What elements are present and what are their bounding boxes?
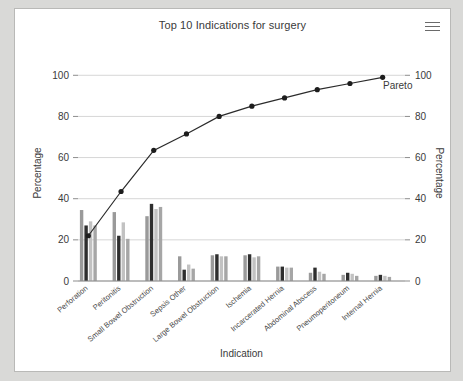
bar-5-4[interactable]: [224, 256, 227, 281]
bar-7-1[interactable]: [276, 267, 279, 281]
bar-2-4[interactable]: [126, 239, 129, 281]
pareto-point-9[interactable]: [347, 81, 352, 86]
pareto-point-8[interactable]: [315, 87, 320, 92]
bar-8-4[interactable]: [322, 274, 325, 281]
bar-5-1[interactable]: [211, 255, 214, 281]
y-tick-right-20: 20: [415, 234, 427, 245]
y-tick-left-60: 60: [58, 152, 70, 163]
x-category-label-2: Peritonitis: [91, 284, 122, 312]
bar-10-2[interactable]: [379, 275, 382, 281]
y-tick-right-60: 60: [415, 152, 427, 163]
y-tick-left-40: 40: [58, 193, 70, 204]
y-tick-right-0: 0: [415, 276, 421, 287]
x-category-label-1: Perforation: [55, 284, 89, 315]
bar-2-1[interactable]: [113, 212, 116, 281]
bar-7-4[interactable]: [290, 268, 293, 281]
bar-2-2[interactable]: [117, 236, 120, 281]
bar-9-3[interactable]: [351, 274, 354, 281]
pareto-series: [86, 75, 386, 239]
pareto-line: [88, 77, 382, 235]
bar-3-1[interactable]: [145, 216, 148, 281]
bar-9-1[interactable]: [342, 275, 345, 281]
bar-3-4[interactable]: [159, 207, 162, 281]
bar-5-3[interactable]: [220, 256, 223, 281]
bar-6-4[interactable]: [257, 256, 260, 281]
x-axis-category-labels: PerforationPeritonitisSmall Bowel Obstru…: [55, 283, 384, 344]
bar-10-1[interactable]: [374, 276, 377, 281]
bar-4-4[interactable]: [192, 269, 195, 281]
y-tick-left-0: 0: [63, 276, 69, 287]
pareto-point-2[interactable]: [118, 189, 123, 194]
bar-9-2[interactable]: [346, 273, 349, 281]
bar-6-3[interactable]: [252, 257, 255, 281]
bar-10-3[interactable]: [383, 276, 386, 281]
bar-5-2[interactable]: [215, 254, 218, 281]
screenshot-root: Top 10 Indications for surgery 020406080…: [0, 0, 463, 381]
bar-6-2[interactable]: [248, 254, 251, 281]
bar-3-2[interactable]: [150, 204, 153, 281]
bar-7-2[interactable]: [281, 267, 284, 281]
pareto-point-5[interactable]: [217, 114, 222, 119]
y-tick-left-20: 20: [58, 234, 70, 245]
y-tick-right-100: 100: [415, 70, 432, 81]
bar-7-3[interactable]: [285, 268, 288, 281]
y-tick-right-40: 40: [415, 193, 427, 204]
bar-1-4[interactable]: [93, 225, 96, 281]
chart-card: Top 10 Indications for surgery 020406080…: [14, 8, 451, 372]
pareto-point-3[interactable]: [151, 148, 156, 153]
bar-8-1[interactable]: [309, 273, 312, 281]
y-axis-left-ticks: 020406080100: [52, 70, 69, 287]
bar-10-4[interactable]: [388, 277, 391, 281]
bar-8-2[interactable]: [313, 268, 316, 281]
pareto-point-4[interactable]: [184, 131, 189, 136]
bar-9-4[interactable]: [355, 276, 358, 281]
pareto-chart-plot: 020406080100 020406080100 PerforationPer…: [15, 9, 452, 373]
bar-4-2[interactable]: [183, 270, 186, 281]
bar-6-1[interactable]: [243, 255, 246, 281]
pareto-point-1[interactable]: [86, 233, 91, 238]
x-category-label-3: Small Bowel Obstruction: [86, 284, 155, 344]
y-tick-right-80: 80: [415, 111, 427, 122]
bar-3-3[interactable]: [154, 209, 157, 281]
bar-8-3[interactable]: [318, 272, 321, 281]
x-category-label-6: Ischemia: [224, 283, 254, 310]
bar-4-1[interactable]: [178, 256, 181, 281]
y-axis-left-title: Percentage: [32, 147, 43, 199]
y-axis-right-ticks: 020406080100: [415, 70, 432, 287]
bars-layer: [80, 204, 391, 281]
pareto-point-7[interactable]: [282, 95, 287, 100]
bar-1-1[interactable]: [80, 210, 83, 281]
y-tick-left-100: 100: [52, 70, 69, 81]
y-tick-left-80: 80: [58, 111, 70, 122]
bar-4-3[interactable]: [187, 265, 190, 281]
pareto-point-6[interactable]: [249, 104, 254, 109]
pareto-series-label: Pareto: [383, 80, 413, 91]
chart-svg: 020406080100 020406080100 PerforationPer…: [15, 9, 452, 373]
y-axis-right-title: Percentage: [434, 147, 445, 199]
x-axis-title: Indication: [220, 348, 263, 359]
bar-2-3[interactable]: [122, 222, 125, 281]
x-category-label-5: Large Bowel Obstruction: [151, 284, 220, 344]
